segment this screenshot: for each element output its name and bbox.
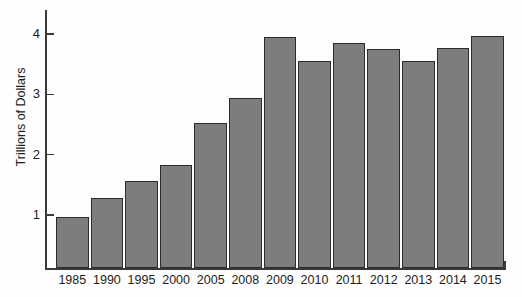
y-axis-line — [45, 10, 47, 269]
bar — [437, 48, 470, 268]
bar — [298, 61, 331, 268]
y-tick-label: 3 — [22, 87, 40, 100]
bar — [471, 36, 504, 268]
bar — [367, 49, 400, 268]
y-tick-mark — [46, 94, 54, 96]
y-tick-label: 1 — [22, 208, 40, 221]
y-tick-label: 4 — [22, 27, 40, 40]
bar — [160, 165, 193, 268]
bar — [194, 123, 227, 268]
plot-area: Trillions of Dollars 1234 19851990199520… — [0, 0, 522, 297]
x-tick-label: 2015 — [468, 274, 508, 287]
y-axis-title: Trillions of Dollars — [14, 47, 28, 187]
bar — [264, 37, 297, 268]
y-tick-label: 2 — [22, 148, 40, 161]
bar — [402, 61, 435, 268]
bar-chart: Trillions of Dollars 1234 19851990199520… — [0, 0, 522, 297]
y-tick-mark — [46, 154, 54, 156]
bar — [125, 181, 158, 268]
bar — [91, 198, 124, 268]
y-tick-mark — [46, 214, 54, 216]
y-tick-mark — [46, 33, 54, 35]
bar — [333, 43, 366, 268]
bar — [229, 98, 262, 268]
x-axis-line — [45, 268, 506, 270]
x-axis-end-tick — [504, 261, 506, 270]
bar — [56, 217, 89, 268]
